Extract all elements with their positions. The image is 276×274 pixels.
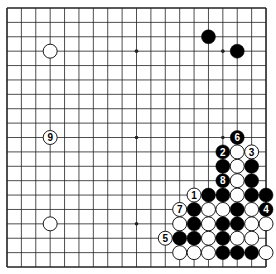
move-number-label: 5 bbox=[163, 233, 169, 244]
black-stone bbox=[216, 231, 230, 245]
black-stone-move-6: 6 bbox=[230, 131, 244, 145]
black-stone bbox=[216, 188, 230, 202]
go-board: 962381745 bbox=[0, 0, 276, 274]
move-number-label: 8 bbox=[220, 175, 226, 186]
white-stone bbox=[43, 44, 57, 58]
black-stone-icon bbox=[173, 231, 187, 245]
white-stone-move-7: 7 bbox=[173, 202, 187, 216]
white-stone-icon bbox=[187, 246, 201, 260]
black-stone-icon bbox=[216, 217, 230, 231]
white-stone bbox=[259, 246, 273, 260]
white-stone-icon bbox=[43, 217, 57, 231]
move-number-label: 4 bbox=[263, 204, 269, 215]
white-stone bbox=[245, 202, 259, 216]
white-stone bbox=[201, 246, 215, 260]
white-stone-icon bbox=[43, 44, 57, 58]
black-stone bbox=[187, 231, 201, 245]
white-stone-icon bbox=[173, 217, 187, 231]
white-stone bbox=[201, 202, 215, 216]
white-stone-icon bbox=[230, 174, 244, 188]
move-number-label: 2 bbox=[220, 147, 226, 158]
white-stone bbox=[43, 217, 57, 231]
black-stone-icon bbox=[216, 188, 230, 202]
white-stone bbox=[201, 231, 215, 245]
white-stone bbox=[230, 231, 244, 245]
black-stone-icon bbox=[201, 188, 215, 202]
black-stone-move-4: 4 bbox=[259, 202, 273, 216]
white-stone bbox=[245, 231, 259, 245]
white-stone-move-5: 5 bbox=[158, 231, 172, 245]
white-stone bbox=[230, 174, 244, 188]
black-stone bbox=[259, 188, 273, 202]
white-stone bbox=[201, 217, 215, 231]
black-stone-icon bbox=[216, 159, 230, 173]
black-stone-icon bbox=[230, 246, 244, 260]
white-stone-icon bbox=[245, 217, 259, 231]
black-stone-move-2: 2 bbox=[216, 145, 230, 159]
white-stone-icon bbox=[216, 202, 230, 216]
white-stone-move-3: 3 bbox=[245, 145, 259, 159]
move-number-label: 6 bbox=[234, 132, 240, 143]
white-stone bbox=[259, 217, 273, 231]
move-number-label: 7 bbox=[177, 204, 183, 215]
white-stone bbox=[173, 217, 187, 231]
white-stone bbox=[230, 188, 244, 202]
black-stone bbox=[216, 246, 230, 260]
star-point-icon bbox=[221, 136, 225, 140]
black-stone-icon bbox=[245, 174, 259, 188]
black-stone bbox=[201, 188, 215, 202]
star-point-icon bbox=[135, 49, 139, 53]
white-stone bbox=[230, 159, 244, 173]
black-stone-icon bbox=[245, 188, 259, 202]
black-stone-icon bbox=[216, 246, 230, 260]
star-point-icon bbox=[221, 49, 225, 53]
white-stone-icon bbox=[230, 159, 244, 173]
move-number-label: 1 bbox=[191, 190, 197, 201]
black-stone bbox=[201, 30, 215, 44]
black-stone-icon bbox=[230, 202, 244, 216]
black-stone-icon bbox=[201, 30, 215, 44]
white-stone-icon bbox=[173, 246, 187, 260]
white-stone-move-1: 1 bbox=[187, 188, 201, 202]
black-stone-icon bbox=[245, 159, 259, 173]
black-stone bbox=[245, 174, 259, 188]
white-stone-icon bbox=[245, 231, 259, 245]
white-stone-move-9: 9 bbox=[43, 131, 57, 145]
black-stone bbox=[173, 231, 187, 245]
star-point-icon bbox=[135, 222, 139, 226]
star-point-icon bbox=[135, 136, 139, 140]
black-stone bbox=[245, 246, 259, 260]
black-stone bbox=[187, 217, 201, 231]
white-stone bbox=[187, 246, 201, 260]
black-stone-icon bbox=[187, 231, 201, 245]
black-stone-icon bbox=[216, 231, 230, 245]
black-stone bbox=[245, 188, 259, 202]
move-number-label: 3 bbox=[249, 147, 255, 158]
black-stone-icon bbox=[245, 246, 259, 260]
black-stone-icon bbox=[230, 44, 244, 58]
white-stone bbox=[173, 246, 187, 260]
black-stone bbox=[216, 217, 230, 231]
white-stone-icon bbox=[259, 246, 273, 260]
black-stone-icon bbox=[259, 188, 273, 202]
black-stone-icon bbox=[230, 217, 244, 231]
white-stone-icon bbox=[230, 231, 244, 245]
white-stone bbox=[216, 202, 230, 216]
white-stone-icon bbox=[245, 202, 259, 216]
white-stone-icon bbox=[230, 145, 244, 159]
white-stone-icon bbox=[201, 246, 215, 260]
black-stone bbox=[216, 159, 230, 173]
black-stone bbox=[230, 44, 244, 58]
white-stone-icon bbox=[201, 231, 215, 245]
stones-layer: 962381745 bbox=[43, 30, 273, 260]
black-stone bbox=[245, 159, 259, 173]
white-stone bbox=[245, 217, 259, 231]
black-stone bbox=[230, 217, 244, 231]
white-stone bbox=[230, 145, 244, 159]
black-stone-icon bbox=[187, 217, 201, 231]
white-stone-icon bbox=[259, 217, 273, 231]
black-stone bbox=[230, 202, 244, 216]
move-number-label: 9 bbox=[47, 132, 53, 143]
black-stone bbox=[187, 202, 201, 216]
black-stone bbox=[230, 246, 244, 260]
